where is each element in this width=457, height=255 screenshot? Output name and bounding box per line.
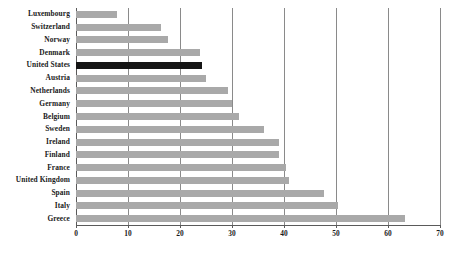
bar-italy bbox=[76, 202, 338, 209]
bar-denmark bbox=[76, 49, 200, 56]
bar-switzerland bbox=[76, 24, 161, 31]
x-tick-label-0: 0 bbox=[74, 229, 78, 238]
x-tick-mark-40 bbox=[284, 225, 285, 228]
x-tick-mark-20 bbox=[180, 225, 181, 228]
x-tick-label-70: 70 bbox=[436, 229, 443, 238]
bar-france bbox=[76, 164, 286, 171]
x-tick-mark-0 bbox=[76, 225, 77, 228]
x-axis-ticks: 010203040506070 bbox=[76, 225, 440, 247]
category-label-france: France bbox=[0, 164, 70, 172]
x-tick-label-30: 30 bbox=[228, 229, 235, 238]
bar-germany bbox=[76, 100, 232, 107]
x-tick-label-20: 20 bbox=[176, 229, 183, 238]
category-label-spain: Spain bbox=[0, 189, 70, 197]
bar-ireland bbox=[76, 139, 279, 146]
bar-belgium bbox=[76, 113, 239, 120]
gridline-60 bbox=[388, 8, 389, 225]
bar-finland bbox=[76, 151, 279, 158]
bar-sweden bbox=[76, 126, 264, 133]
bar-norway bbox=[76, 36, 168, 43]
plot-area bbox=[76, 8, 440, 225]
bar-united-states bbox=[76, 62, 202, 69]
bar-united-kingdom bbox=[76, 177, 289, 184]
x-tick-mark-10 bbox=[128, 225, 129, 228]
gridline-50 bbox=[336, 8, 337, 225]
bar-chart: LuxembourgSwitzerlandNorwayDenmarkUnited… bbox=[0, 0, 457, 255]
x-tick-label-40: 40 bbox=[280, 229, 287, 238]
bar-netherlands bbox=[76, 87, 228, 94]
x-tick-label-50: 50 bbox=[332, 229, 339, 238]
bar-greece bbox=[76, 215, 405, 222]
category-label-italy: Italy bbox=[0, 202, 70, 210]
x-tick-mark-50 bbox=[336, 225, 337, 228]
category-label-finland: Finland bbox=[0, 151, 70, 159]
category-axis: LuxembourgSwitzerlandNorwayDenmarkUnited… bbox=[0, 8, 74, 225]
x-tick-mark-60 bbox=[388, 225, 389, 228]
x-tick-label-60: 60 bbox=[384, 229, 391, 238]
bar-austria bbox=[76, 75, 206, 82]
category-label-belgium: Belgium bbox=[0, 113, 70, 121]
x-tick-mark-70 bbox=[440, 225, 441, 228]
category-label-greece: Greece bbox=[0, 215, 70, 223]
category-label-germany: Germany bbox=[0, 100, 70, 108]
category-label-austria: Austria bbox=[0, 74, 70, 82]
x-tick-mark-30 bbox=[232, 225, 233, 228]
category-label-denmark: Denmark bbox=[0, 49, 70, 57]
bar-spain bbox=[76, 190, 324, 197]
category-label-ireland: Ireland bbox=[0, 138, 70, 146]
gridline-70 bbox=[440, 8, 441, 225]
category-label-netherlands: Netherlands bbox=[0, 87, 70, 95]
x-tick-label-10: 10 bbox=[124, 229, 131, 238]
category-label-united-states: United States bbox=[0, 61, 70, 69]
bar-luxembourg bbox=[76, 11, 117, 18]
category-label-luxembourg: Luxembourg bbox=[0, 10, 70, 18]
category-label-norway: Norway bbox=[0, 36, 70, 44]
category-label-united-kingdom: United Kingdom bbox=[0, 176, 70, 184]
category-label-switzerland: Switzerland bbox=[0, 23, 70, 31]
category-label-sweden: Sweden bbox=[0, 125, 70, 133]
